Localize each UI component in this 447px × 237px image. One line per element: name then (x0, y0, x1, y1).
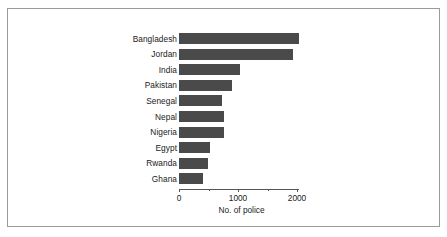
bar (179, 49, 293, 60)
bar-category-label: Jordan (151, 50, 177, 59)
x-axis-tick-label: 1000 (229, 194, 247, 203)
bar-row: Ghana (8, 173, 441, 184)
bar-row: Egypt (8, 142, 441, 153)
x-axis-minor-tick (268, 189, 269, 191)
x-axis-line (179, 189, 299, 190)
bar-category-label: Senegal (146, 96, 177, 105)
bar (179, 95, 222, 106)
bar (179, 158, 208, 169)
bar-category-label: Nepal (155, 112, 177, 121)
bar-row: Bangladesh (8, 33, 441, 44)
x-axis-tick-label: 2000 (288, 194, 306, 203)
bar-row: Pakistan (8, 80, 441, 91)
bar-category-label: Egypt (156, 143, 177, 152)
x-axis-tick-label: 0 (177, 194, 182, 203)
bar-category-label: India (159, 65, 177, 74)
bar-category-label: Nigeria (150, 128, 177, 137)
bar (179, 127, 224, 138)
x-axis-minor-tick (209, 189, 210, 191)
bar (179, 111, 224, 122)
x-axis-title: No. of police (179, 205, 304, 215)
chart-figure-frame: No. of police BangladeshJordanIndiaPakis… (7, 8, 440, 227)
bar-category-label: Ghana (152, 174, 177, 183)
plot-area: No. of police BangladeshJordanIndiaPakis… (8, 9, 441, 228)
bar-category-label: Pakistan (145, 81, 177, 90)
bar (179, 64, 240, 75)
bar-category-label: Rwanda (146, 159, 177, 168)
bar (179, 173, 203, 184)
x-axis-tick (297, 189, 298, 192)
bar-row: Nigeria (8, 127, 441, 138)
bar-row: Nepal (8, 111, 441, 122)
bar (179, 33, 299, 44)
bar-chart: No. of police BangladeshJordanIndiaPakis… (8, 9, 441, 228)
bar-row: India (8, 64, 441, 75)
x-axis-tick (179, 189, 180, 192)
bar (179, 80, 232, 91)
bar (179, 142, 210, 153)
bar-row: Rwanda (8, 158, 441, 169)
bar-row: Jordan (8, 49, 441, 60)
x-axis-tick (238, 189, 239, 192)
bar-row: Senegal (8, 95, 441, 106)
bar-category-label: Bangladesh (133, 34, 177, 43)
